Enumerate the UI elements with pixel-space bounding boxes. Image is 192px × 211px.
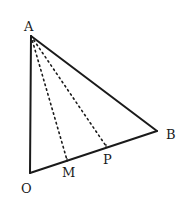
label-M: M (62, 165, 75, 180)
dashed-segment-AM (31, 36, 67, 160)
dashed-segment-AP (31, 36, 106, 146)
label-A: A (23, 19, 34, 34)
label-O: O (21, 181, 32, 196)
label-P: P (103, 152, 112, 167)
segment-OB (30, 131, 157, 173)
label-B: B (166, 127, 176, 142)
segments (30, 36, 157, 173)
segment-AB (31, 36, 157, 131)
segment-AO (30, 36, 31, 173)
triangle-diagram: A O B M P (0, 0, 192, 211)
diagram-svg: A O B M P (0, 0, 192, 211)
